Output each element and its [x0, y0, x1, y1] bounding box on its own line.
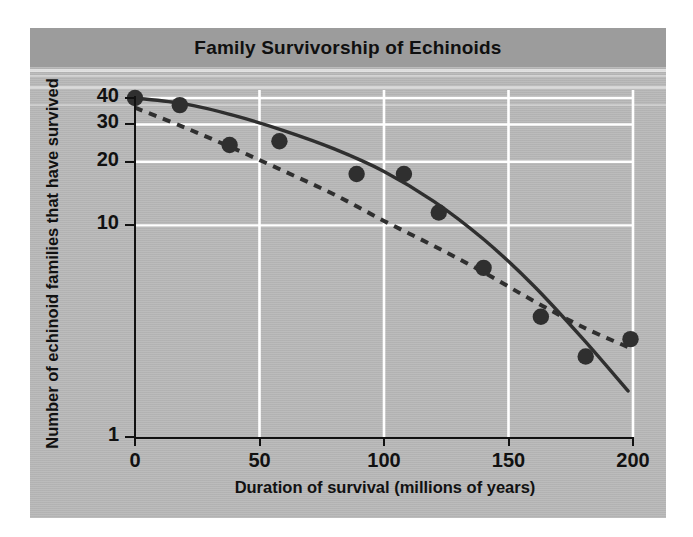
plot-area: [135, 98, 633, 437]
y-axis-title-text: Number of echinoid families that have su…: [43, 78, 62, 448]
x-tick-mark: [259, 437, 261, 446]
y-tick-label: 40: [71, 84, 119, 107]
y-tick-label: 30: [71, 110, 119, 133]
x-axis-title: Duration of survival (millions of years): [135, 478, 635, 497]
chart-title: Family Survivorship of Echinoids: [194, 37, 501, 59]
curves-layer: [135, 98, 633, 437]
x-tick-label: 200: [616, 449, 649, 472]
y-axis-title: Number of echinoid families that have su…: [38, 98, 66, 428]
x-tick-label: 150: [492, 449, 525, 472]
data-point: [348, 166, 364, 182]
y-axis-line: [134, 96, 136, 439]
title-band: Family Survivorship of Echinoids: [30, 28, 666, 67]
data-point: [396, 166, 412, 182]
x-tick-mark: [134, 437, 136, 446]
scan-artifact-band: [30, 69, 666, 72]
data-point: [622, 331, 638, 347]
y-tick-label: 1: [71, 423, 119, 446]
y-tick-label: 20: [71, 148, 119, 171]
data-point: [475, 260, 491, 276]
x-tick-mark: [383, 437, 385, 446]
data-point: [533, 309, 549, 325]
data-point: [172, 97, 188, 113]
y-tick-mark: [125, 123, 134, 125]
y-tick-mark: [125, 224, 134, 226]
data-point: [221, 137, 237, 153]
observed-survivorship-curve: [135, 98, 628, 391]
y-tick-mark: [125, 97, 134, 99]
data-point: [431, 204, 447, 220]
y-tick-label: 10: [71, 211, 119, 234]
x-tick-mark: [508, 437, 510, 446]
data-point: [577, 348, 593, 364]
x-tick-label: 100: [367, 449, 400, 472]
y-tick-mark: [125, 161, 134, 163]
scan-artifact-band: [30, 86, 666, 89]
x-tick-mark: [632, 437, 634, 446]
data-point: [271, 133, 287, 149]
scan-artifact-band: [30, 75, 666, 77]
x-tick-label: 50: [248, 449, 270, 472]
figure-page: Family Survivorship of Echinoids 1102030…: [0, 0, 693, 537]
x-tick-label: 0: [129, 449, 140, 472]
y-tick-mark: [125, 436, 134, 438]
